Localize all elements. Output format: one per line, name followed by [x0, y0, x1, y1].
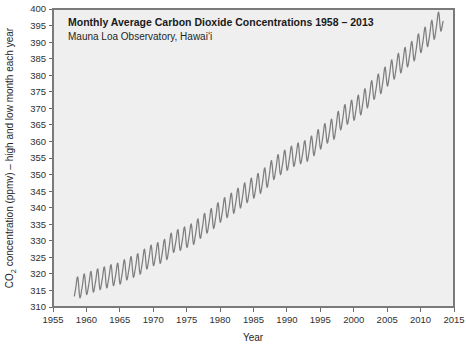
- y-tick-label: 355: [30, 152, 46, 163]
- x-tick-label: 1965: [109, 314, 130, 325]
- co2-chart-figure: 3103153203253303353403453503553603653703…: [0, 0, 466, 345]
- x-tick-label: 1955: [42, 314, 63, 325]
- y-tick-label: 315: [30, 285, 46, 296]
- y-axis-ticks: 3103153203253303353403453503553603653703…: [30, 3, 53, 312]
- x-axis-ticks: 1955196019651970197519801985199019952000…: [42, 307, 464, 325]
- x-tick-label: 2015: [443, 314, 464, 325]
- y-tick-label: 365: [30, 119, 46, 130]
- y-tick-label: 345: [30, 186, 46, 197]
- chart-title: Monthly Average Carbon Dioxide Concentra…: [68, 16, 374, 28]
- y-axis-title-suffix: concentration (ppmv) – high and low mont…: [4, 27, 15, 269]
- chart-subtitle: Mauna Loa Observatory, Hawaiʻi: [68, 31, 212, 42]
- x-tick-label: 2010: [410, 314, 431, 325]
- y-tick-label: 380: [30, 70, 46, 81]
- x-tick-label: 2000: [343, 314, 364, 325]
- y-tick-label: 340: [30, 202, 46, 213]
- y-axis-title: CO2 concentration (ppmv) – high and low …: [4, 27, 18, 288]
- y-tick-label: 330: [30, 235, 46, 246]
- y-tick-label: 400: [30, 3, 46, 14]
- y-tick-label: 390: [30, 37, 46, 48]
- x-tick-label: 1975: [176, 314, 197, 325]
- x-axis-title: Year: [243, 332, 264, 343]
- y-tick-label: 360: [30, 136, 46, 147]
- y-tick-label: 320: [30, 268, 46, 279]
- x-tick-label: 1960: [76, 314, 97, 325]
- x-tick-label: 1985: [243, 314, 264, 325]
- y-tick-label: 375: [30, 86, 46, 97]
- x-tick-label: 1980: [210, 314, 231, 325]
- y-tick-label: 325: [30, 252, 46, 263]
- x-tick-label: 1990: [276, 314, 297, 325]
- x-tick-label: 2005: [377, 314, 398, 325]
- plot-background: [53, 9, 454, 307]
- chart-canvas: 3103153203253303353403453503553603653703…: [0, 0, 466, 345]
- y-tick-label: 385: [30, 53, 46, 64]
- y-axis-title-prefix: CO: [4, 273, 15, 288]
- y-tick-label: 395: [30, 20, 46, 31]
- y-tick-label: 335: [30, 219, 46, 230]
- y-tick-label: 310: [30, 301, 46, 312]
- y-tick-label: 370: [30, 103, 46, 114]
- y-tick-label: 350: [30, 169, 46, 180]
- x-tick-label: 1995: [310, 314, 331, 325]
- x-tick-label: 1970: [143, 314, 164, 325]
